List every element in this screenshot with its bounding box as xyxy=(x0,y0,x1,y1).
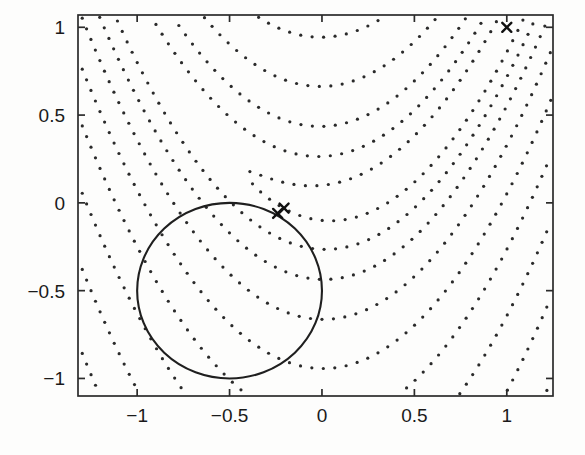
contour-dot xyxy=(306,276,309,279)
contour-dot xyxy=(536,185,539,188)
contour-dot xyxy=(531,22,534,25)
contour-dot xyxy=(238,281,241,284)
contour-dot xyxy=(311,35,314,38)
contour-dot xyxy=(179,386,182,389)
contour-dot xyxy=(81,17,84,20)
contour-dot xyxy=(103,26,106,29)
contour-dot xyxy=(430,189,433,192)
contour-dot xyxy=(192,230,195,233)
contour-dot xyxy=(263,69,266,72)
contour-dot xyxy=(165,149,168,152)
contour-dot xyxy=(356,242,359,245)
contour-dot xyxy=(85,78,88,81)
contour-dot xyxy=(89,289,92,292)
contour-dot xyxy=(267,22,270,25)
contour-dot xyxy=(467,41,470,44)
contour-dot xyxy=(112,141,115,144)
contour-dot xyxy=(309,217,312,220)
contour-dot xyxy=(498,118,501,121)
contour-dot xyxy=(494,165,497,168)
contour-dot xyxy=(169,121,172,124)
contour-dot xyxy=(117,209,120,212)
contour-dot xyxy=(488,175,491,178)
contour-dot xyxy=(133,183,136,186)
x-tick-label: 0.5 xyxy=(401,405,427,426)
contour-dot xyxy=(198,51,201,54)
contour-dot xyxy=(389,155,392,158)
contour-dot xyxy=(175,131,178,134)
contour-dot xyxy=(107,37,110,40)
contour-dot xyxy=(94,48,97,51)
contour-dot xyxy=(526,347,529,350)
contour-dot xyxy=(304,184,307,187)
contour-dot xyxy=(320,318,323,321)
constraint-circle xyxy=(137,203,322,379)
contour-dot xyxy=(207,356,210,359)
contour-dot xyxy=(103,321,106,324)
contour-dot xyxy=(531,262,534,265)
contour-dot xyxy=(420,267,423,270)
contour-dot xyxy=(494,268,497,271)
contour-dot xyxy=(514,87,517,90)
contour-dot xyxy=(449,195,452,198)
contour-dot xyxy=(400,120,403,123)
contour-dot xyxy=(499,155,502,158)
contour-dot xyxy=(465,69,468,72)
contour-dot xyxy=(133,383,136,386)
contour-dot xyxy=(483,353,486,356)
contour-dot xyxy=(433,87,436,90)
contour-dot xyxy=(452,162,455,165)
contour-dot xyxy=(352,273,355,276)
contour-dot xyxy=(295,274,298,277)
contour-dot xyxy=(437,298,440,301)
contour-dot xyxy=(322,248,325,251)
contour-dot xyxy=(473,32,476,35)
contour-dot xyxy=(334,124,337,127)
contour-dot xyxy=(377,233,380,236)
contour-dot xyxy=(89,38,92,41)
contour-dot xyxy=(292,183,295,186)
x-tick-label: −1 xyxy=(126,405,148,426)
plot-canvas: −1−0.500.51−1−0.500.51 xyxy=(0,0,585,455)
contour-dot xyxy=(477,242,480,245)
contour-dot xyxy=(238,92,241,95)
contour-dot xyxy=(181,141,184,144)
contour-dot xyxy=(445,97,448,100)
contour-dot xyxy=(521,216,524,219)
contour-dot xyxy=(138,193,141,196)
contour-dot xyxy=(505,192,508,195)
contour-dot xyxy=(81,268,84,271)
contour-dot xyxy=(456,186,459,189)
contour-dot xyxy=(221,77,224,80)
contour-dot xyxy=(494,213,497,216)
contour-dot xyxy=(489,104,492,107)
contour-dot xyxy=(81,192,84,195)
contour-dot xyxy=(117,58,120,61)
contour-dot xyxy=(549,99,552,102)
contour-dot xyxy=(365,308,368,311)
contour-dot xyxy=(200,347,203,350)
contour-dot xyxy=(506,74,509,77)
contour-dot xyxy=(154,172,157,175)
contour-dot xyxy=(540,175,543,178)
contour-dot xyxy=(545,389,548,392)
contour-dot xyxy=(146,81,149,84)
contour-dot xyxy=(521,283,524,286)
contour-dot xyxy=(471,109,474,112)
contour-dot xyxy=(81,124,84,127)
contour-dot xyxy=(352,79,355,82)
contour-dot xyxy=(206,248,209,251)
y-tick-label: −1 xyxy=(43,368,65,389)
contour-dot xyxy=(208,178,211,181)
contour-dot xyxy=(465,317,468,320)
contour-dot xyxy=(429,307,432,310)
contour-dot xyxy=(321,219,324,222)
contour-dot xyxy=(511,378,514,381)
contour-dot xyxy=(278,237,281,240)
contour-dot xyxy=(277,357,280,360)
contour-dot xyxy=(440,78,443,81)
contour-dot xyxy=(201,169,204,172)
contour-dot xyxy=(459,79,462,82)
contour-dot xyxy=(163,112,166,115)
contour-dot xyxy=(363,269,366,272)
